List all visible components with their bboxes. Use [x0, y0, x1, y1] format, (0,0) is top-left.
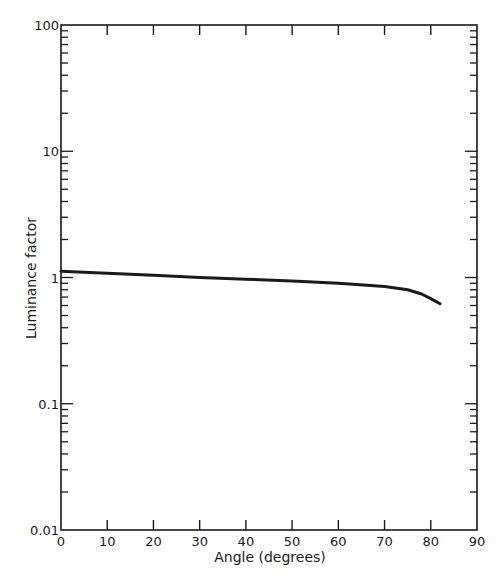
y-tick-label: 0.1	[38, 397, 59, 412]
y-axis-label: Luminance factor	[23, 217, 39, 339]
y-tick-label: 0.01	[30, 523, 59, 538]
x-tick-label: 70	[376, 534, 393, 549]
x-tick-label: 30	[191, 534, 208, 549]
axis-tick-labels: 01020304050607080900.010.1110100	[30, 18, 485, 549]
x-tick-label: 90	[469, 534, 486, 549]
axis-ticks	[61, 25, 477, 530]
x-axis-label: Angle (degrees)	[214, 549, 326, 565]
x-tick-label: 60	[330, 534, 347, 549]
x-tick-label: 40	[238, 534, 255, 549]
x-tick-label: 80	[423, 534, 440, 549]
y-tick-label: 1	[51, 271, 59, 286]
luminance-chart: 01020304050607080900.010.1110100 Angle (…	[0, 0, 501, 578]
y-tick-label: 10	[42, 144, 59, 159]
y-tick-label: 100	[34, 18, 59, 33]
x-tick-label: 20	[145, 534, 162, 549]
x-tick-label: 10	[99, 534, 116, 549]
x-tick-label: 50	[284, 534, 301, 549]
plot-frame	[61, 25, 477, 530]
data-line	[61, 271, 440, 303]
